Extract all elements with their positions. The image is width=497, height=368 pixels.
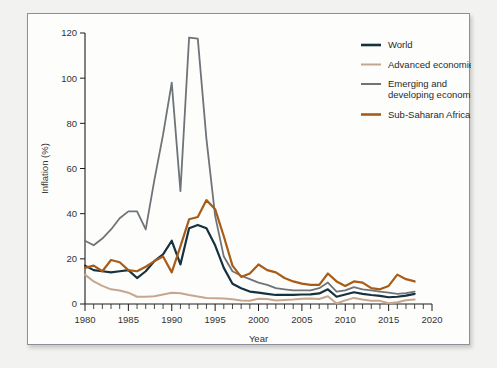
chart-plot-area: 0204060801001201980198519901995200020052…	[28, 14, 471, 346]
series-line-2	[85, 38, 415, 294]
legend-label-3: Sub-Saharan Africa	[388, 109, 471, 120]
y-tick-label: 20	[66, 253, 77, 264]
legend-label-2-line2: developing economies	[388, 89, 471, 100]
x-tick-label: 1995	[205, 314, 226, 325]
legend-label-0: World	[388, 39, 413, 50]
page-background: 0204060801001201980198519901995200020052…	[0, 0, 497, 368]
legend-label-1: Advanced economies	[388, 59, 471, 70]
y-tick-label: 80	[66, 118, 77, 129]
legend-label-2: Emerging and	[388, 78, 447, 89]
x-axis-title: Year	[249, 333, 268, 344]
x-tick-label: 1980	[74, 314, 95, 325]
y-tick-label: 60	[66, 163, 77, 174]
x-tick-label: 1990	[161, 314, 182, 325]
y-tick-label: 100	[61, 73, 77, 84]
x-tick-label: 2010	[335, 314, 356, 325]
x-tick-label: 2020	[421, 314, 442, 325]
y-axis-title: Inflation (%)	[39, 143, 50, 194]
series-line-0	[85, 225, 415, 297]
y-tick-label: 40	[66, 208, 77, 219]
y-tick-label: 0	[72, 298, 77, 309]
legend-group: WorldAdvanced economiesEmerging anddevel…	[361, 39, 471, 120]
x-tick-label: 2000	[248, 314, 269, 325]
y-tick-label: 120	[61, 27, 77, 38]
x-tick-label: 2005	[291, 314, 312, 325]
series-group	[85, 38, 415, 304]
figure-frame: 0204060801001201980198519901995200020052…	[27, 13, 470, 345]
inflation-line-chart: 0204060801001201980198519901995200020052…	[28, 14, 471, 346]
x-tick-label: 1985	[118, 314, 139, 325]
x-tick-label: 2015	[378, 314, 399, 325]
